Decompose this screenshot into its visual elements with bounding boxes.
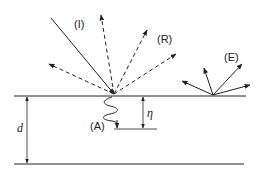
label-incident: (I)	[74, 18, 84, 30]
reflected-ray-2	[101, 15, 114, 94]
emitted-ray-1	[182, 81, 213, 95]
reflected-ray-3	[114, 30, 147, 94]
label-emitted: (E)	[224, 51, 239, 63]
label-absorbed: (A)	[90, 120, 105, 132]
reflected-ray-4	[114, 54, 176, 94]
label-eta: η	[147, 106, 153, 120]
reflected-ray-1	[49, 64, 114, 94]
reflected-rays	[49, 15, 176, 94]
absorbed-wave	[103, 97, 117, 126]
emitted-ray-4	[213, 85, 250, 95]
emitted-rays	[182, 64, 250, 95]
label-d: d	[17, 121, 24, 135]
label-reflected: (R)	[157, 33, 172, 45]
emitted-ray-2	[204, 68, 213, 95]
diagram-canvas: (I) (R) (E) (A) η d	[0, 0, 259, 176]
emitted-ray-3	[213, 64, 242, 95]
